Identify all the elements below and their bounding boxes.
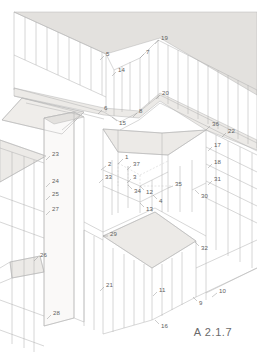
- callout-number-31: 31: [214, 175, 221, 182]
- callout-number-16: 16: [161, 322, 168, 329]
- callout-number-34: 34: [134, 187, 141, 194]
- callout-number-19: 19: [161, 34, 168, 41]
- callout-number-37: 37: [133, 160, 140, 167]
- callout-number-21: 21: [106, 281, 113, 288]
- callout-number-20: 20: [162, 89, 169, 96]
- callout-number-25: 25: [52, 190, 59, 197]
- callout-number-23: 23: [52, 150, 59, 157]
- callout-number-28: 28: [53, 309, 60, 316]
- callout-number-15: 15: [119, 119, 126, 126]
- sheet-code-label: A 2.1.7: [194, 326, 232, 338]
- callout-number-33: 33: [105, 173, 112, 180]
- plane-left-pier-face: [44, 112, 74, 326]
- callout-number-29: 29: [110, 230, 117, 237]
- callout-number-30: 30: [201, 192, 208, 199]
- callout-number-12: 12: [146, 188, 153, 195]
- callout-number-18: 18: [214, 158, 221, 165]
- callout-number-22: 22: [228, 127, 235, 134]
- framing-isometric-svg: 1234567891011121314151617181920212223242…: [0, 0, 257, 355]
- callout-number-27: 27: [52, 205, 59, 212]
- isometric-drawing-canvas: 1234567891011121314151617181920212223242…: [0, 0, 257, 355]
- callout-number-36: 36: [212, 120, 219, 127]
- callout-number-13: 13: [146, 205, 153, 212]
- callout-number-35: 35: [175, 180, 182, 187]
- callout-number-17: 17: [214, 141, 221, 148]
- callout-number-32: 32: [201, 244, 208, 251]
- callout-number-11: 11: [159, 286, 166, 293]
- callout-number-24: 24: [52, 177, 59, 184]
- callout-number-10: 10: [219, 287, 226, 294]
- callout-number-14: 14: [118, 66, 125, 73]
- callout-number-26: 26: [40, 251, 47, 258]
